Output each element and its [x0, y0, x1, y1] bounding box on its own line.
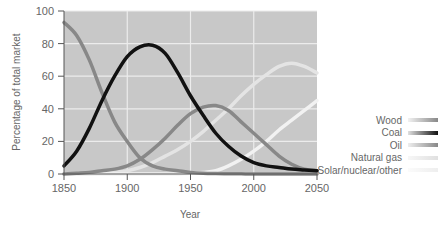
x-tick-label: 2050 — [305, 182, 329, 194]
legend-swatch-icon — [408, 131, 438, 135]
legend-label: Solar/nuclear/other — [318, 165, 403, 176]
legend-item-wood: Wood — [318, 114, 439, 127]
legend-label: Coal — [381, 127, 402, 138]
legend-label: Natural gas — [351, 152, 402, 163]
legend-item-coal: Coal — [318, 127, 439, 140]
y-tick-label: 80 — [42, 38, 54, 50]
x-axis-ticks: 18501900195020002050 — [52, 174, 329, 194]
y-tick-label: 0 — [48, 168, 54, 180]
x-tick-label: 1850 — [52, 182, 76, 194]
legend-swatch-icon — [408, 156, 438, 160]
legend-item-oil: Oil — [318, 139, 439, 152]
legend-swatch-icon — [408, 168, 438, 172]
y-tick-label: 60 — [42, 70, 54, 82]
legend-item-solar-nuclear-other: Solar/nuclear/other — [318, 164, 439, 177]
legend: Wood Coal Oil Natural gas Solar/nuclear/… — [318, 114, 439, 177]
y-tick-label: 20 — [42, 135, 54, 147]
y-tick-label: 100 — [36, 5, 54, 17]
legend-label: Wood — [376, 115, 402, 126]
legend-swatch-icon — [408, 143, 438, 147]
legend-swatch-icon — [408, 118, 438, 122]
x-axis-title: Year — [180, 209, 201, 220]
legend-label: Oil — [390, 140, 402, 151]
y-tick-label: 40 — [42, 103, 54, 115]
y-axis-title: Percentage of total market — [11, 33, 22, 151]
y-axis-ticks: 020406080100 — [36, 5, 64, 180]
x-tick-label: 2000 — [242, 182, 266, 194]
legend-item-natural-gas: Natural gas — [318, 152, 439, 165]
x-tick-label: 1950 — [178, 182, 202, 194]
x-tick-label: 1900 — [115, 182, 139, 194]
